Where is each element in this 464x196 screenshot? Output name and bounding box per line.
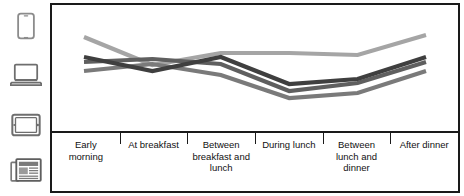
category-label-2: Betweenbreakfast andlunch [187,133,255,191]
category-label-line: After dinner [390,139,458,151]
newspaper-icon [8,150,44,190]
category-label-line: Between [187,139,255,151]
category-label-line: dinner [323,162,391,174]
series-lines [52,5,458,131]
category-label-line: breakfast and [187,151,255,163]
category-label-3: During lunch [255,133,323,191]
category-label-line: morning [52,151,120,163]
category-label-line: During lunch [255,139,323,151]
line-chart-figure: EarlymorningAt breakfastBetweenbreakfast… [0,0,464,196]
category-label-line: Between [323,139,391,151]
chart-frame: EarlymorningAt breakfastBetweenbreakfast… [50,3,460,193]
category-label-5: After dinner [390,133,458,191]
category-label-line: lunch [187,162,255,174]
category-label-line: At breakfast [120,139,188,151]
category-label-1: At breakfast [120,133,188,191]
tablet-icon [8,105,44,145]
smartphone-icon [8,6,44,46]
category-label-4: Betweenlunch anddinner [323,133,391,191]
plot-area [52,5,458,131]
category-label-line: lunch and [323,151,391,163]
category-axis: EarlymorningAt breakfastBetweenbreakfast… [52,133,458,191]
device-legend-rail [0,0,50,196]
category-label-0: Earlymorning [52,133,120,191]
laptop-icon [8,55,44,95]
category-label-line: Early [52,139,120,151]
